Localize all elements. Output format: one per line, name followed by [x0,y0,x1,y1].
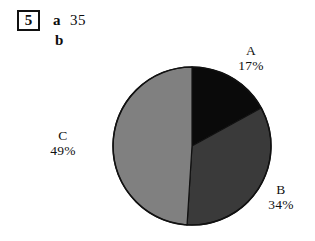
pie-label-c-name: C [38,128,88,143]
figure-page: 5 a 35 b A 17% B 34% C 49% [0,0,315,241]
pie-label-a-percent: 17% [228,58,274,73]
pie-label-c: C 49% [38,128,88,158]
pie-label-a: A 17% [228,43,274,73]
pie-label-b-name: B [258,182,304,197]
pie-label-b-percent: 34% [258,197,304,212]
pie-slice-c [113,67,192,225]
pie-label-b: B 34% [258,182,304,212]
pie-label-c-percent: 49% [38,143,88,158]
pie-chart: A 17% B 34% C 49% [0,0,315,241]
pie-label-a-name: A [228,43,274,58]
pie-chart-svg [110,64,274,228]
